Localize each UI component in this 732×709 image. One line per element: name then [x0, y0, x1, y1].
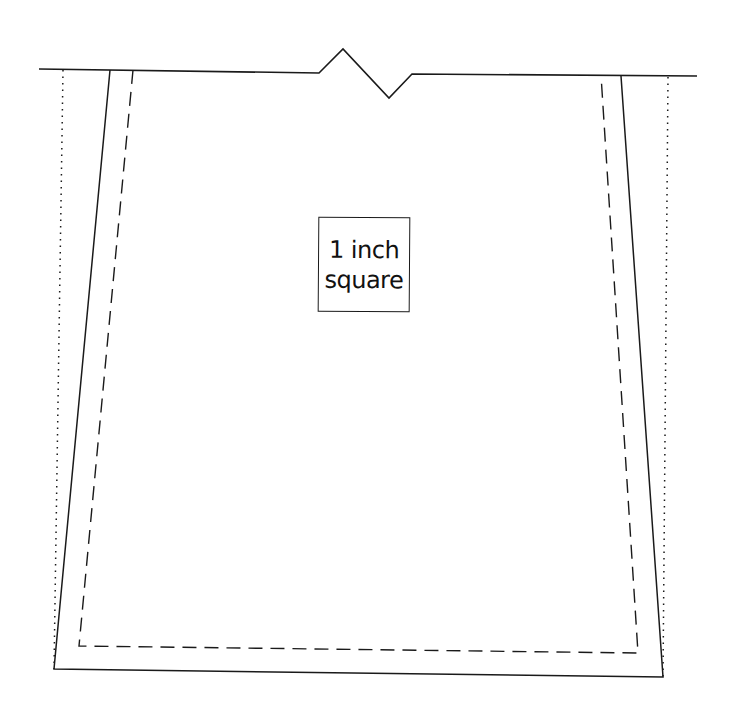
inner-stitching-line: [79, 70, 638, 653]
pattern-svg: [0, 0, 732, 709]
scale-reference-square: 1 inch square: [318, 217, 411, 313]
outer-cutting-line: [54, 70, 663, 677]
top-edge-with-notch: [39, 49, 697, 98]
scale-label-line1: 1 inch: [329, 234, 399, 264]
right-dotted-guide: [663, 77, 668, 677]
pattern-diagram: 1 inch square: [0, 0, 732, 709]
scale-label-line2: square: [324, 264, 403, 295]
